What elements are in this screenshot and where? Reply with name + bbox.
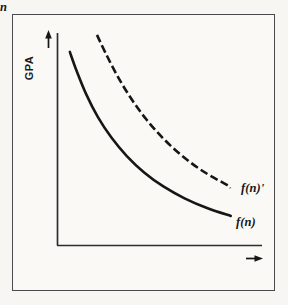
y-axis-label: GPA xyxy=(23,38,35,98)
chart-canvas xyxy=(0,0,288,305)
series-label-f-n: f(n) xyxy=(236,215,256,230)
series-line-f-n xyxy=(70,52,231,216)
series-line-f-n-prime xyxy=(97,35,231,188)
x-axis-right-arrow-icon xyxy=(246,255,263,262)
series-label-f-n-prime: f(n)' xyxy=(241,181,264,196)
y-axis-up-arrow-icon xyxy=(45,30,52,48)
figure-root: GPA f(n)' f(n) n xyxy=(0,0,288,305)
